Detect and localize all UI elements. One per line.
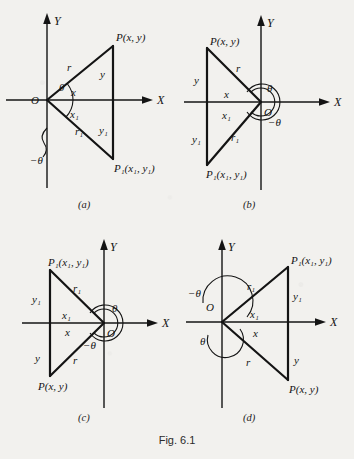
panel-c-x-axis (22, 319, 158, 327)
panel-a-origin-label: O (31, 94, 39, 106)
panel-a-y1-label: y₁ (98, 124, 108, 136)
panel-c-ray-r1 (50, 270, 104, 323)
panel-b-caption: (b) (243, 199, 256, 211)
panel-b-y-axis-label: Y (267, 16, 275, 30)
panel-b-ray-r (207, 48, 261, 102)
panel-d-y-label: y (293, 354, 299, 366)
panel-c-x1-label: x₁ (61, 309, 71, 321)
panel-d-theta-label: θ (200, 335, 206, 347)
panel-b-point-p1-label: P₁(x₁, y₁) (205, 168, 247, 181)
figure-caption: Fig. 6.1 (159, 434, 196, 446)
panel-d-r1-label: r₁ (247, 280, 255, 292)
panel-c: Y X O P₁(x₁, y₁) P(x, y) r₁ r x₁ x y₁ y … (22, 239, 170, 424)
panel-d-x-axis-label: X (329, 315, 338, 329)
panel-a-point-p-label: P(x, y) (115, 31, 146, 44)
panel-c-neg-theta-label: −θ (83, 339, 96, 351)
panel-c-origin-label: O (107, 327, 115, 339)
panel-c-x-axis-label: X (161, 316, 170, 330)
panel-d-y1-label: y₁ (292, 290, 302, 302)
panel-b-x-axis-label: X (333, 95, 342, 109)
panel-a-neg-theta-label: −θ (30, 154, 43, 166)
panel-c-caption: (c) (78, 412, 90, 424)
panel-b-y1-label: y₁ (191, 133, 201, 145)
panel-c-theta-label: θ (112, 302, 118, 314)
panel-a-point-p1-label: P₁(x₁, y₁) (113, 162, 155, 175)
figure-6-1: Y X O P(x, y) P₁(x₁, y₁) r r₁ x x₁ y y₁ … (0, 0, 354, 459)
figure-canvas: Y X O P(x, y) P₁(x₁, y₁) r r₁ x x₁ y y₁ … (0, 0, 354, 459)
panel-a: Y X O P(x, y) P₁(x₁, y₁) r r₁ x x₁ y y₁ … (6, 13, 165, 211)
panel-a-r1-label: r₁ (75, 125, 83, 137)
panel-b-r-label: r (236, 62, 241, 74)
panel-d-y-axis-label: Y (228, 240, 236, 254)
panel-a-x-axis-label: X (156, 93, 165, 107)
panel-c-point-p1-label: P₁(x₁, y₁) (47, 256, 89, 269)
panel-d-theta-arc (207, 329, 243, 358)
panel-d-point-p-label: P(x, y) (288, 383, 319, 396)
panel-c-r-label: r (73, 354, 78, 366)
panel-a-x1-label: x₁ (69, 108, 79, 120)
panel-a-y-axis-label: Y (54, 14, 62, 28)
panel-a-r-label: r (67, 61, 72, 73)
panel-c-ray-r (50, 323, 104, 376)
panel-a-x-axis (6, 96, 153, 104)
panel-a-caption: (a) (78, 199, 91, 211)
panel-c-point-p-label: P(x, y) (37, 380, 68, 393)
panel-c-r1-label: r₁ (73, 282, 81, 294)
panel-a-x-label: x (70, 86, 76, 98)
panel-c-y1-label: y₁ (31, 293, 41, 305)
panel-a-y-label: y (99, 68, 105, 80)
panel-d-r-label: r (246, 356, 251, 368)
panel-b-x-label: x (223, 88, 229, 100)
panel-d-point-p1-label: P₁(x₁, y₁) (290, 254, 332, 267)
panel-c-y-label: y (34, 352, 40, 364)
panel-c-x-label: x (64, 326, 70, 338)
panel-d-neg-theta-label: −θ (188, 287, 201, 299)
panel-b-r1-label: r₁ (231, 131, 239, 143)
panel-a-theta-label: θ (59, 81, 65, 93)
panel-d-x1-label: x₁ (249, 308, 259, 320)
panel-b-x1-label: x₁ (221, 109, 231, 121)
panel-a-neg-theta-arc (42, 128, 47, 157)
panel-d-origin-label: O (206, 301, 214, 313)
panel-b: Y X O P(x, y) P₁(x₁, y₁) r r₁ x x₁ y y₁ … (184, 15, 342, 211)
panel-d-x-label: x (252, 327, 258, 339)
panel-b-neg-theta-label: −θ (268, 116, 281, 128)
panel-c-y-axis-label: Y (110, 240, 118, 254)
panel-b-theta-label: θ (267, 82, 273, 94)
panel-b-point-p-label: P(x, y) (209, 35, 240, 48)
panel-d: Y X O P₁(x₁, y₁) P(x, y) r₁ r x₁ x y₁ y … (186, 239, 338, 424)
panel-d-caption: (d) (243, 412, 256, 424)
panel-b-y-label: y (193, 74, 199, 86)
